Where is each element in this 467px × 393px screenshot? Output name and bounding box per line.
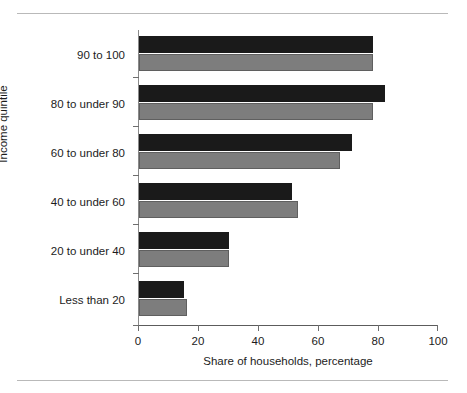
y-category-label: 20 to under 40	[0, 245, 125, 257]
x-tick-label: 20	[178, 335, 218, 347]
bar-2007	[139, 36, 373, 53]
y-category-label: 40 to under 60	[0, 196, 125, 208]
x-tick-label: 100	[418, 335, 458, 347]
bar-2007	[139, 134, 352, 151]
y-axis-tick	[133, 77, 139, 78]
x-axis-line	[138, 325, 438, 326]
bar-2004	[139, 201, 298, 218]
x-axis-title: Share of households, percentage	[138, 355, 438, 367]
x-axis-tick	[378, 325, 379, 331]
y-axis-tick	[133, 224, 139, 225]
x-axis-tick	[318, 325, 319, 331]
plot-area: 0 20 40 60 80 100	[138, 30, 438, 325]
x-axis-tick	[258, 325, 259, 331]
bar-2004	[139, 250, 229, 267]
x-axis-tick	[437, 325, 438, 331]
bar-2004	[139, 103, 373, 120]
bottom-divider-rule	[17, 380, 448, 381]
x-axis-tick	[198, 325, 199, 331]
bar-2004	[139, 152, 340, 169]
bar-2004	[139, 54, 373, 71]
x-tick-label: 0	[118, 335, 158, 347]
y-axis-tick	[133, 175, 139, 176]
y-axis-tick	[133, 126, 139, 127]
y-category-label: Less than 20	[0, 294, 125, 306]
y-category-label: 90 to 100	[0, 49, 125, 61]
figure-container: Income quintile Share of households, per…	[0, 0, 467, 393]
bar-2004	[139, 299, 187, 316]
x-tick-label: 40	[238, 335, 278, 347]
bar-2007	[139, 232, 229, 249]
x-tick-label: 60	[298, 335, 338, 347]
top-divider-rule	[17, 13, 448, 14]
y-category-label: 60 to under 80	[0, 147, 125, 159]
x-axis-tick	[138, 325, 139, 331]
y-axis-tick	[133, 273, 139, 274]
bar-2007	[139, 183, 292, 200]
bar-2007	[139, 85, 385, 102]
bar-2007	[139, 281, 184, 298]
x-tick-label: 80	[358, 335, 398, 347]
y-category-label: 80 to under 90	[0, 98, 125, 110]
